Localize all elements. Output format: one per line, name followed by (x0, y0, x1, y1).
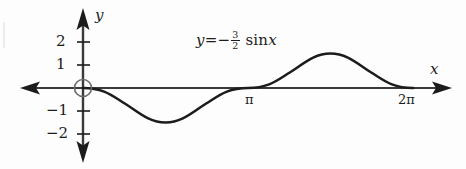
equation-variable: x (268, 31, 277, 49)
y-tick-label-neg1: −1 (46, 103, 68, 118)
figure-canvas: 2 1 −1 −2 y x π 2π y=−32 sinx (0, 0, 466, 169)
y-tick-label-1: 1 (56, 57, 66, 72)
equation-denominator: 2 (231, 40, 239, 51)
y-tick-label-2: 2 (56, 34, 66, 49)
equation-trig: sin (245, 31, 268, 49)
equation-numerator: 3 (231, 30, 239, 40)
equation-sign: − (217, 31, 230, 49)
equation-equals: = (205, 31, 218, 49)
y-axis-label: y (95, 8, 103, 23)
plot-svg (0, 0, 466, 169)
equation-fraction: 32 (231, 30, 239, 50)
equation-lhs: y (196, 31, 205, 49)
y-tick-label-neg2: −2 (46, 126, 68, 141)
x-axis-label: x (430, 62, 438, 77)
x-tick-label-pi: π (245, 93, 254, 106)
x-tick-label-2pi: 2π (398, 93, 415, 106)
equation-annotation: y=−32 sinx (196, 30, 277, 50)
